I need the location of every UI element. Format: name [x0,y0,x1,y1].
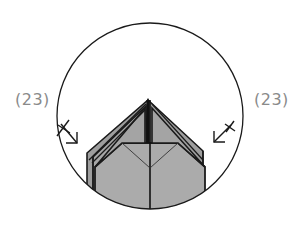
origami-detail-diagram [0,0,305,233]
inside-reverse-fold-arrow-right-icon [214,121,235,142]
folded-model [87,100,205,233]
